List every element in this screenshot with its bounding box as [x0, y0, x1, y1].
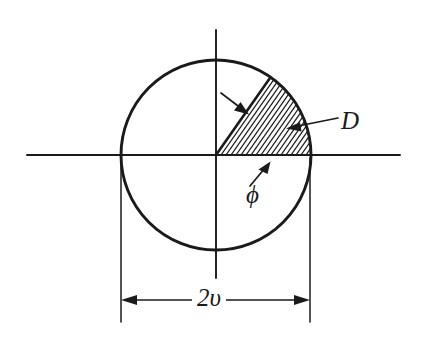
radius-pointer-arrow	[221, 93, 249, 115]
region-label-D: D	[341, 108, 359, 133]
dimension-arrowhead-left	[121, 295, 137, 305]
angle-label-phi: ϕ	[246, 182, 259, 207]
figure-canvas: D ϕ 2υ	[0, 0, 424, 344]
dimension-arrowhead-right	[294, 295, 310, 305]
angle-pointer-arrowhead	[259, 162, 271, 175]
diameter-label: 2υ	[192, 285, 226, 310]
